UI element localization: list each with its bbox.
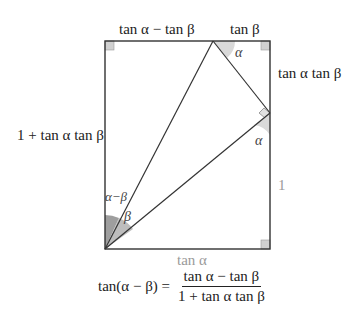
angle-label-top: α bbox=[235, 45, 243, 60]
label-left-side: 1 + tan α tan β bbox=[17, 127, 104, 143]
formula-numerator: tan α − tan β bbox=[182, 268, 262, 287]
label-right-upper-segment: tan α tan β bbox=[278, 65, 341, 81]
tan-difference-formula: tan(α − β) = tan α − tan β 1 + tan α tan… bbox=[98, 268, 267, 305]
formula-lhs: tan(α − β) = bbox=[98, 278, 170, 295]
formula-denominator: 1 + tan α tan β bbox=[176, 287, 267, 305]
label-top-right-segment: tan β bbox=[230, 21, 260, 37]
label-bottom-side: tan α bbox=[177, 252, 207, 268]
label-right-lower-segment: 1 bbox=[278, 177, 286, 193]
line-to-top-vertex bbox=[105, 41, 213, 249]
line-to-right-vertex bbox=[105, 113, 270, 249]
angle-label-beta: β bbox=[123, 209, 131, 224]
label-top-left-segment: tan α − tan β bbox=[119, 21, 195, 37]
right-angle-marker-top-left bbox=[105, 41, 114, 50]
right-angle-marker-top-right bbox=[261, 41, 270, 50]
angle-label-alpha-minus-beta: α−β bbox=[105, 189, 128, 204]
formula-fraction: tan α − tan β 1 + tan α tan β bbox=[176, 268, 267, 305]
diagram-canvas: tan α − tan β tan β tan α tan β 1 1 + ta… bbox=[0, 0, 362, 313]
right-angle-marker-bottom-right bbox=[261, 240, 270, 249]
angle-label-right: α bbox=[255, 133, 263, 148]
